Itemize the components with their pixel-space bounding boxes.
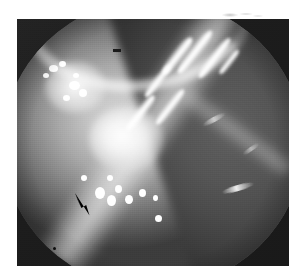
- bright-speck: [155, 215, 162, 222]
- bright-speck: [153, 195, 158, 201]
- bright-speck: [139, 189, 146, 197]
- bright-speck: [69, 81, 80, 90]
- bright-speck: [43, 73, 49, 78]
- bright-speck: [59, 61, 66, 67]
- circular-field-of-view: [17, 19, 289, 266]
- bright-speck: [73, 73, 79, 78]
- bright-speck: [115, 185, 122, 193]
- bright-speck: [107, 195, 116, 206]
- bright-speck: [63, 95, 70, 101]
- page-canvas: [0, 0, 304, 278]
- bright-speck: [107, 175, 113, 181]
- endoscopic-photograph: [17, 19, 289, 266]
- bright-speck: [81, 175, 87, 181]
- bright-speck: [95, 187, 105, 199]
- bright-speck: [79, 89, 87, 97]
- central-light-pool: [89, 107, 163, 171]
- pencil-smudge-mark: [222, 11, 264, 19]
- bright-speck: [125, 195, 133, 204]
- bright-speck: [49, 65, 58, 72]
- dark-dash-artifact: [113, 49, 121, 52]
- dark-speck-artifact: [53, 247, 56, 250]
